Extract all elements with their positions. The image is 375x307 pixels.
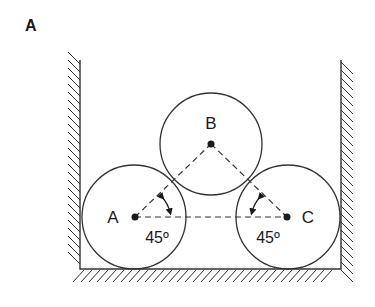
- center-dots: [132, 141, 291, 221]
- left-wall-hatching: [68, 52, 80, 264]
- floor-hatching: [73, 270, 332, 282]
- label-circle-c: C: [302, 208, 314, 227]
- center-dot-a: [132, 214, 139, 221]
- angle-arcs: [162, 197, 260, 212]
- container: [80, 60, 341, 269]
- angle-label-c: 45º: [256, 229, 280, 246]
- angle-label-a: 45º: [145, 229, 169, 246]
- angle-arc-c: [252, 197, 260, 212]
- center-dot-b: [208, 141, 215, 148]
- label-circle-b: B: [205, 114, 216, 133]
- center-dot-c: [284, 214, 291, 221]
- line-a-b: [135, 144, 211, 217]
- center-triangle: [135, 144, 287, 217]
- label-circle-a: A: [107, 208, 119, 227]
- angle-arc-a: [162, 197, 170, 212]
- diagram-canvas: A B C 45º 45º: [0, 0, 375, 307]
- container-outline: [80, 60, 341, 269]
- circles-in-container-diagram: A: [0, 0, 375, 307]
- panel-label: A: [25, 17, 37, 35]
- line-b-c: [211, 144, 287, 217]
- right-wall-hatching: [341, 62, 353, 282]
